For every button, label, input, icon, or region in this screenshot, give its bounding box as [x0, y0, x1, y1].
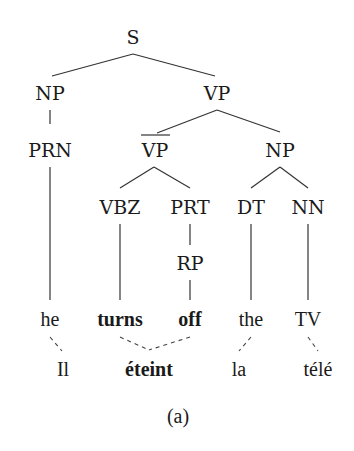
align-he-il: [50, 337, 62, 351]
edge-vpbar-prt: [154, 167, 190, 188]
edge-s-np: [52, 54, 133, 76]
edge-vp-vpbar: [157, 110, 217, 133]
parse-tree-diagram: S NP VP PRN VP NP VBZ PRT DT NN RP he tu…: [0, 0, 354, 451]
node-rp: RP: [176, 252, 203, 274]
target-word-eteint: éteint: [125, 358, 173, 380]
node-prn: PRN: [28, 139, 72, 161]
source-word-he: he: [41, 308, 60, 330]
node-vbz: VBZ: [99, 196, 141, 218]
edge-np-dt: [251, 167, 280, 188]
node-nn: NN: [291, 196, 324, 218]
target-word-tele: télé: [304, 358, 333, 380]
target-sentence: Il éteint la télé: [57, 358, 333, 380]
alignment-links: [50, 337, 318, 351]
edge-vpbar-vbz: [120, 167, 154, 188]
edge-np-nn: [280, 167, 308, 188]
edge-s-vp: [133, 54, 215, 76]
tree-nodes: S NP VP PRN VP NP VBZ PRT DT NN RP: [28, 26, 324, 274]
node-vp-bar: VP: [141, 139, 169, 161]
target-word-la: la: [232, 358, 247, 380]
node-np-right: NP: [265, 139, 295, 161]
source-word-off: off: [178, 308, 202, 330]
source-word-turns: turns: [97, 308, 143, 330]
node-dt: DT: [237, 196, 265, 218]
node-np-left: NP: [35, 82, 65, 104]
source-word-tv: TV: [295, 308, 322, 330]
edge-vp-np: [217, 110, 280, 132]
node-s: S: [126, 26, 139, 48]
source-sentence: he turns off the TV: [41, 308, 322, 330]
align-off-eteint: [149, 337, 190, 350]
node-prt: PRT: [170, 196, 210, 218]
figure-caption: (a): [167, 405, 189, 428]
node-vp: VP: [203, 82, 231, 104]
align-the-la: [239, 337, 251, 351]
source-word-the: the: [239, 308, 264, 330]
align-tv-tele: [308, 337, 318, 351]
align-turns-eteint: [120, 337, 149, 350]
target-word-il: Il: [57, 358, 70, 380]
